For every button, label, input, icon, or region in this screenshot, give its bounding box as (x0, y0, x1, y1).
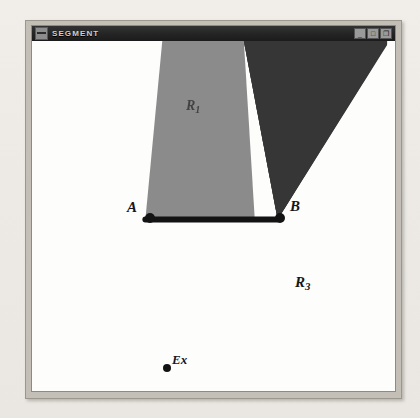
label-point-a: A (127, 199, 137, 216)
point-ex-dot[interactable] (163, 364, 171, 372)
point-a-dot[interactable] (145, 213, 155, 223)
label-region-r1: R1 (186, 98, 200, 115)
maximize-button[interactable]: □ (367, 28, 379, 39)
window-title: SEGMENT (52, 29, 99, 38)
scanned-page: as showoor noterms thhithe terere oris a… (0, 0, 420, 418)
label-point-ex: Ex (172, 352, 187, 368)
region-r1-shape[interactable] (145, 41, 254, 220)
window-controls: _ □ ❐ (354, 28, 393, 39)
label-region-r1-subscript: 1 (195, 104, 200, 115)
minimize-button[interactable]: _ (354, 28, 366, 39)
window-client-area: SEGMENT _ □ ❐ (31, 25, 396, 392)
point-b-dot[interactable] (275, 213, 285, 223)
window-titlebar[interactable]: SEGMENT _ □ ❐ (32, 26, 395, 41)
label-region-r3-subscript: 3 (305, 280, 310, 292)
label-region-r1-base: R (186, 98, 195, 113)
application-window[interactable]: SEGMENT _ □ ❐ (25, 20, 402, 399)
diagram-svg (32, 41, 395, 391)
region-r2-wedge[interactable] (244, 41, 387, 220)
diagram-canvas[interactable] (32, 41, 395, 391)
label-region-r3-base: R (295, 274, 305, 290)
system-menu-icon[interactable] (35, 27, 48, 40)
restore-button[interactable]: ❐ (380, 28, 392, 39)
label-region-r3: R3 (295, 274, 310, 292)
label-point-b: B (290, 198, 300, 215)
